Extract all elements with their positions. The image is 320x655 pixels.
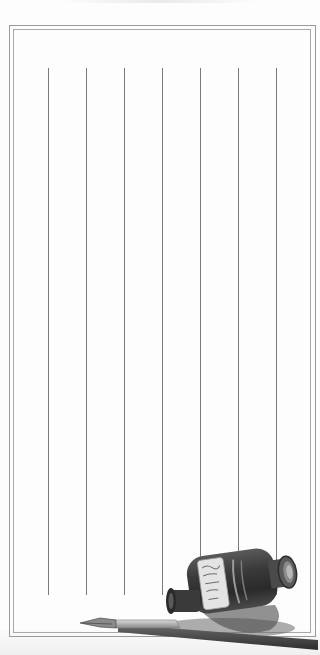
top-edge-faint-mark: [60, 0, 260, 3]
rule-line: [124, 68, 125, 595]
rule-line: [48, 68, 49, 595]
rule-line: [276, 68, 277, 595]
rule-line: [238, 68, 239, 595]
rule-line: [86, 68, 87, 595]
rule-line: [162, 68, 163, 595]
rule-line: [200, 68, 201, 595]
